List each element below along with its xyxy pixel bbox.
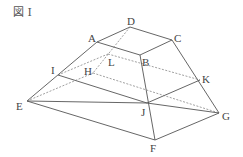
label-L: L [108,56,115,68]
edge-CD [130,27,172,40]
edge-HG [93,73,219,113]
edge-JG [147,103,219,113]
label-A: A [88,32,96,44]
edge-LK [108,54,200,80]
label-F: F [150,142,156,154]
dashed-edges [27,27,219,113]
edge-IJ [58,75,147,103]
edge-IL [58,54,108,75]
edge-DA [97,27,130,42]
label-I: I [51,64,55,76]
label-C: C [174,32,181,44]
edge-FG [155,113,219,140]
label-D: D [127,15,135,27]
edge-JK [147,80,200,103]
label-H: H [84,65,92,77]
label-B: B [142,56,149,68]
edge-CG [172,40,219,113]
solid-edges [27,27,219,140]
edge-EF [27,101,155,140]
label-E: E [16,100,23,112]
edge-AB [97,42,140,55]
edge-EH [27,73,93,101]
edge-BC [140,40,172,55]
label-G: G [222,110,230,122]
label-K: K [202,73,210,85]
frustum-diagram: D A C B L I H K E J G F [0,0,243,157]
edge-EJ [27,101,147,103]
label-J: J [141,106,146,118]
